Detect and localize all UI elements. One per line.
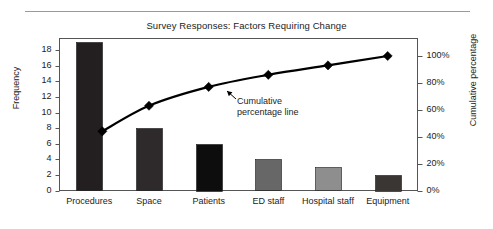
bar-space (137, 129, 163, 191)
bar-equipment (376, 176, 402, 192)
bar-ed-staff (256, 160, 282, 191)
y2-tick-label: 100% (427, 50, 450, 60)
y-tick-label: 14 (20, 75, 52, 85)
y-axis-ticks (56, 51, 60, 192)
y2-axis-ticks (418, 57, 423, 192)
y-tick-label: 0 (20, 185, 52, 195)
x-tick-label-equipment: Equipment (352, 196, 424, 206)
y-tick-label: 4 (20, 153, 52, 163)
y-tick-label: 10 (20, 107, 52, 117)
y2-tick-label: 0% (427, 185, 440, 195)
annotation-line-1: Cumulative (237, 96, 299, 107)
cumulative-line-annotation: Cumulative percentage line (237, 96, 299, 118)
y-tick-label: 12 (20, 91, 52, 101)
y-tick-label: 8 (20, 122, 52, 132)
y-tick-label: 2 (20, 169, 52, 179)
bar-patients (197, 145, 223, 192)
y-tick-label: 16 (20, 60, 52, 70)
y-tick-label: 6 (20, 138, 52, 148)
y2-tick-label: 80% (427, 77, 445, 87)
bar-hospital-staff (316, 168, 342, 191)
y-tick-label: 18 (20, 44, 52, 54)
y2-tick-label: 40% (427, 131, 445, 141)
y2-tick-label: 60% (427, 104, 445, 114)
annotation-line-2: percentage line (237, 107, 299, 118)
bar-procedures (77, 43, 103, 191)
pareto-chart-figure: Survey Responses: Factors Requiring Chan… (0, 0, 493, 229)
y2-tick-label: 20% (427, 158, 445, 168)
